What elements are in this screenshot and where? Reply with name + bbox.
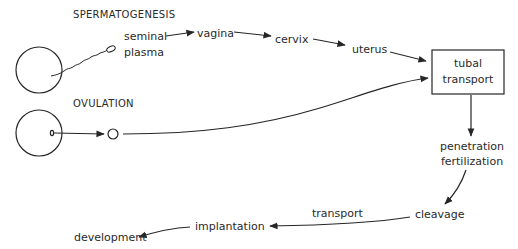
vagina-label: vagina [197,27,234,40]
testis-sperm-icon [16,45,116,93]
tubal-label: tubal [454,57,482,70]
seminal-label: seminal [124,30,167,43]
uterus-to-tubal-arrow [390,52,426,61]
oocyte-icon [108,129,118,139]
penetration-label: penetration [440,140,504,153]
oocyte-to-tubal-arrow [123,78,428,134]
transport-label: transport [312,207,364,220]
tubal-transport-box: tubal transport [432,50,504,94]
implantation-label: implantation [195,220,265,233]
fertilization-to-cleavage-arrow [445,170,466,204]
seminal-to-vagina-arrow [166,32,194,36]
development-label: development [74,231,147,244]
plasma-label: plasma [124,46,164,59]
cleavage-label: cleavage [415,208,465,221]
reproduction-flow-diagram: SPERMATOGENESIS OVULATION seminal plasma… [0,0,518,249]
implantation-to-development-arrow [139,227,190,237]
fertilization-label: fertilization [441,155,503,168]
vagina-to-cervix-arrow [234,32,271,36]
spermatogenesis-label: SPERMATOGENESIS [73,9,175,20]
cervix-label: cervix [275,33,309,46]
ovulation-label: OVULATION [73,98,134,109]
uterus-label: uterus [352,43,388,56]
cervix-to-uterus-arrow [313,39,345,45]
transport-box-label: transport [443,73,495,86]
